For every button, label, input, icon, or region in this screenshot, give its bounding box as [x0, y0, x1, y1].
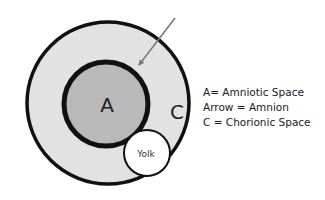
legend-item-amniotic-space: A= Amniotic Space	[203, 85, 311, 100]
label-c: C	[170, 100, 184, 124]
legend-item-amnion: Arrow = Amnion	[203, 100, 311, 115]
diagram-canvas: A C Yolk A= Amniotic Space Arrow = Amnio…	[0, 0, 325, 200]
legend-item-chorionic-space: C = Chorionic Space	[203, 115, 311, 130]
legend: A= Amniotic Space Arrow = Amnion C = Cho…	[203, 85, 311, 130]
label-a: A	[100, 93, 114, 117]
label-yolk: Yolk	[136, 149, 155, 159]
